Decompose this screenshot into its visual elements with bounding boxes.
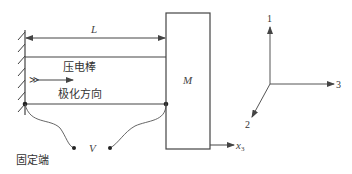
right-wire xyxy=(110,104,166,148)
fixed-end-label: 固定端 xyxy=(16,153,49,167)
coordinate-axes xyxy=(252,27,334,117)
left-wire xyxy=(25,104,74,148)
voltage-terminal-left xyxy=(72,146,76,150)
displacement-label: x3 xyxy=(235,139,245,153)
piezo-rod-diagram: L 压电棒 ≫ 极化方向 V M x3 固定端 1 3 2 xyxy=(0,0,352,174)
voltage-terminal-right xyxy=(108,146,112,150)
polarization-label: 极化方向 xyxy=(58,87,102,101)
voltage-label: V xyxy=(89,142,97,154)
axis-2-label: 2 xyxy=(245,119,250,130)
axis-1-label: 1 xyxy=(267,13,272,24)
rod-label: 压电棒 xyxy=(63,60,96,74)
length-label: L xyxy=(90,23,97,35)
axis-3-label: 3 xyxy=(336,79,341,90)
mass-label: M xyxy=(182,74,193,86)
axis-2-arrow xyxy=(252,84,270,117)
